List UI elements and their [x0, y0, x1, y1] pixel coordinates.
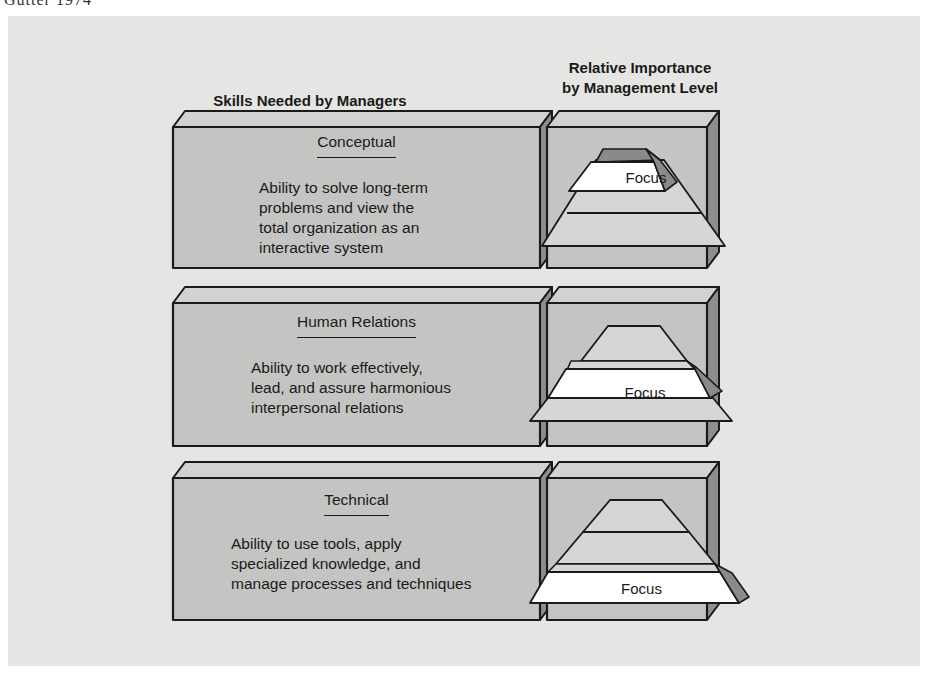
importance-box-human-relations-side [707, 287, 719, 446]
importance-box-technical-top [547, 462, 719, 478]
skill-box-human-relations-top [173, 287, 552, 303]
skill-description: Ability to work effectively, lead, and a… [251, 358, 451, 418]
skill-box-conceptual-top [173, 111, 552, 127]
skill-title: Conceptual [173, 133, 540, 158]
focus-label: Focus [604, 580, 679, 597]
pyramid-tech-mid [556, 532, 715, 564]
focus-label: Focus [610, 384, 680, 401]
pyramid-hr-bottom [530, 398, 732, 421]
importance-box-conceptual-top [547, 111, 719, 127]
skill-box-technical-top [173, 462, 552, 478]
focus-label: Focus [612, 169, 680, 186]
skill-description: Ability to solve long-term problems and … [259, 178, 428, 258]
importance-box-human-relations-top [547, 287, 719, 303]
skill-title: Technical [173, 491, 540, 516]
skill-description: Ability to use tools, apply specialized … [231, 534, 471, 594]
skill-title: Human Relations [173, 313, 540, 338]
